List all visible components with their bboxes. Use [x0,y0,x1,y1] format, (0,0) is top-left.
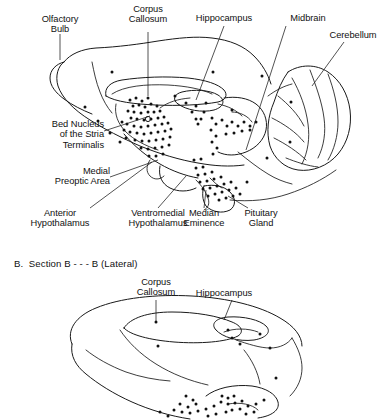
panel-b-cortex-outline [70,296,302,347]
panel-b-thalamus [236,338,292,348]
leader-pituitary-gland [228,196,248,208]
leader-bnst [104,116,150,131]
panel-b-ventral-outline [72,344,190,419]
panel-b-midbrain-curve [244,350,260,384]
cerebellum-folia-7 [286,158,318,167]
label-midbrain: Midbrain [290,13,325,23]
label-ventromedial-hypothalamus: Ventromedial Hypothalamus [129,208,188,229]
midbrain-inner-1 [232,112,252,122]
label-anterior-hypothalamus: Anterior Hypothalamus [31,208,90,229]
leader-cerebellum [312,42,344,86]
figure-canvas: Olfactory Bulb Corpus Callosum Hippocamp… [0,0,386,420]
septum-outline [115,104,158,150]
label-olfactory-bulb: Olfactory Bulb [42,14,79,35]
panel-b-label-hippocampus: Hippocampus [196,288,252,298]
olfactory-bulb-stalk [92,62,112,113]
panel-b-label-corpus-callosum: Corpus Callosum [137,277,175,298]
panel-b-drawing [70,296,302,420]
cerebellum-folia-2 [310,70,325,158]
label-medial-preoptic-area: Medial Preoptic Area [55,166,110,187]
cerebellum-folia-1 [292,78,309,164]
panel-b-caption: B. Section B - - - B (Lateral) [14,258,138,269]
dot-cluster-median-eminence [193,158,242,202]
label-hippocampus: Hippocampus [196,13,252,23]
panel-b-rhinal-fissure [86,350,170,381]
label-median-eminence: Median Eminence [184,208,225,229]
brainstem-outline [238,152,292,184]
ventral-brain-edge [230,170,336,201]
panel-b-dot-cluster [159,395,266,418]
ventral-hypothalamus-outline [159,166,196,191]
label-bed-nucleus-stria-terminalis: Bed Nucleus of the Stria Terminalis [52,119,104,150]
label-cerebellum: Cerebellum [329,30,376,40]
panel-b-brainstem [290,338,302,396]
cerebellum-folia-5 [272,118,304,142]
corpus-callosum-inner [112,85,212,94]
panel-b-temporal-outline [120,330,208,385]
cerebellum-folia-3 [328,74,338,160]
panel-b-corpus-callosum [124,312,241,343]
label-corpus-callosum: Corpus Callosum [129,4,167,25]
label-pituitary-gland: Pituitary Gland [244,208,277,229]
